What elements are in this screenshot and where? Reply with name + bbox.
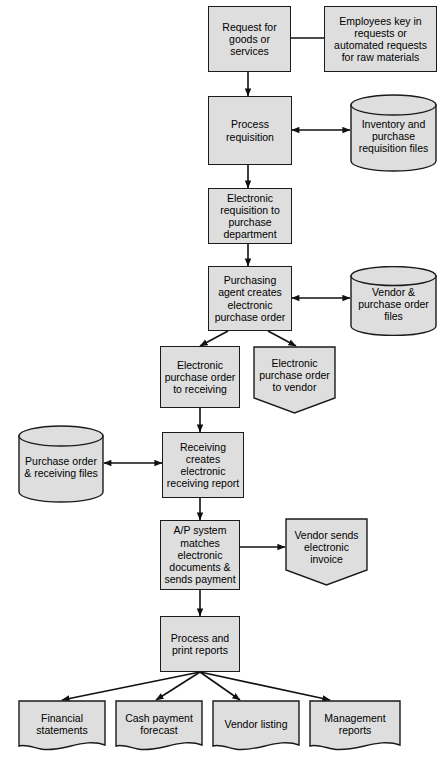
node-vendor-sends-invoice[interactable]: Vendor sends electronic invoice: [285, 518, 368, 586]
node-financial-statements[interactable]: Financial statements: [18, 700, 106, 756]
node-cash-payment-forecast[interactable]: Cash payment forecast: [115, 700, 203, 756]
node-purchasing-agent[interactable]: Purchasing agent creates electronic purc…: [208, 266, 292, 331]
node-management-reports[interactable]: Management reports: [309, 700, 401, 756]
node-process-requisition[interactable]: Process requisition: [208, 96, 292, 165]
node-label: Electronic requisition to purchase depar…: [209, 192, 291, 241]
node-label: Financial statements: [18, 712, 106, 736]
node-vendor-listing[interactable]: Vendor listing: [212, 700, 300, 756]
node-label: Process requisition: [209, 118, 291, 142]
node-request-for-goods[interactable]: Request for goods or services: [208, 6, 291, 72]
node-label: Vendor & purchase order files: [350, 286, 437, 323]
node-label: Inventory and purchase requisition files: [350, 118, 437, 155]
node-vendor-purchase-order-files[interactable]: Vendor & purchase order files: [350, 266, 437, 336]
node-ap-system[interactable]: A/P system matches electronic documents …: [160, 520, 240, 590]
node-label: Vendor sends electronic invoice: [285, 529, 368, 566]
node-po-to-vendor[interactable]: Electronic purchase order to vendor: [253, 346, 336, 414]
node-electronic-requisition[interactable]: Electronic requisition to purchase depar…: [208, 188, 292, 244]
node-label: Employees key in requests or automated r…: [325, 15, 436, 64]
node-receiving-creates-report[interactable]: Receiving creates electronic receiving r…: [162, 432, 244, 498]
node-label: Electronic purchase order to vendor: [253, 357, 336, 394]
node-purchase-order-receiving-files[interactable]: Purchase order & receiving files: [18, 425, 104, 503]
node-label: Cash payment forecast: [115, 712, 203, 736]
node-label: Electronic purchase order to receiving: [161, 359, 239, 396]
node-label: Purchasing agent creates electronic purc…: [209, 274, 291, 323]
node-label: A/P system matches electronic documents …: [161, 524, 239, 585]
node-inventory-purchase-requisition-files[interactable]: Inventory and purchase requisition files: [350, 94, 437, 172]
flowchart-canvas: Request for goods or services Employees …: [0, 0, 443, 762]
node-label: Vendor listing: [221, 718, 290, 730]
node-employees-key-in[interactable]: Employees key in requests or automated r…: [324, 6, 437, 72]
node-label: Receiving creates electronic receiving r…: [163, 441, 243, 490]
node-label: Request for goods or services: [209, 21, 290, 58]
node-label: Purchase order & receiving files: [18, 455, 104, 479]
node-label: Process and print reports: [161, 632, 239, 656]
node-process-print-reports[interactable]: Process and print reports: [160, 616, 240, 672]
node-label: Management reports: [309, 712, 401, 736]
node-po-to-receiving[interactable]: Electronic purchase order to receiving: [160, 346, 240, 408]
